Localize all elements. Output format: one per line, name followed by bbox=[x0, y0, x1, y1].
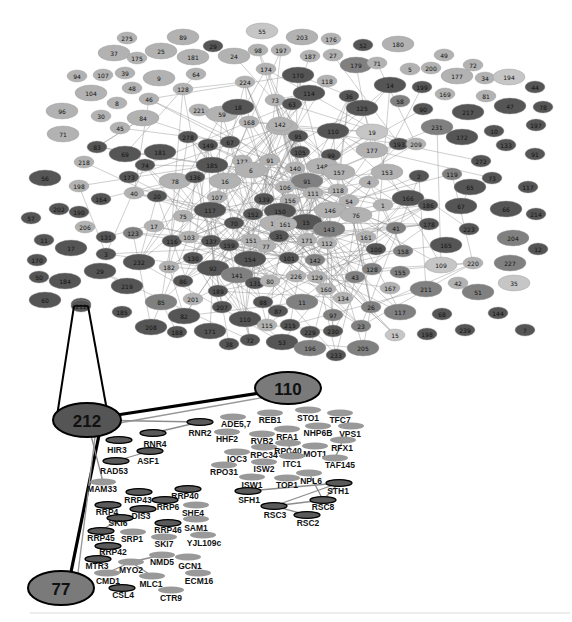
network-node[interactable]: 207 bbox=[212, 301, 232, 313]
network-node[interactable]: 18 bbox=[222, 99, 254, 115]
network-node[interactable]: 174 bbox=[256, 63, 276, 75]
protein-node-ioc3[interactable]: IOC3 bbox=[224, 449, 250, 464]
network-node[interactable]: 4 bbox=[359, 176, 379, 188]
network-node[interactable]: 160 bbox=[316, 283, 336, 295]
network-node[interactable]: 203 bbox=[286, 29, 318, 45]
network-node[interactable]: 47 bbox=[494, 98, 526, 114]
network-node[interactable]: 63 bbox=[282, 98, 302, 110]
protein-node-mlc1[interactable]: MLC1 bbox=[139, 573, 165, 589]
network-node[interactable]: 20 bbox=[147, 190, 167, 202]
protein-node-rrp42[interactable]: RRP42 bbox=[95, 543, 127, 557]
network-node[interactable]: 197 bbox=[271, 44, 291, 56]
network-node[interactable]: 39 bbox=[115, 67, 135, 79]
network-node[interactable]: 134 bbox=[333, 292, 353, 304]
network-node[interactable]: 180 bbox=[382, 36, 414, 52]
protein-node-dis3[interactable]: DIS3 bbox=[130, 506, 156, 521]
network-node[interactable]: 161 bbox=[356, 231, 376, 243]
network-node[interactable]: 27 bbox=[323, 49, 343, 61]
network-node[interactable]: 49 bbox=[434, 49, 454, 61]
network-node[interactable]: 218 bbox=[74, 156, 94, 168]
network-node[interactable]: 223 bbox=[459, 223, 479, 235]
network-node[interactable]: 1 bbox=[373, 199, 393, 211]
network-node[interactable]: 104 bbox=[75, 85, 107, 101]
network-node[interactable]: 11 bbox=[286, 294, 318, 310]
network-node[interactable]: 75 bbox=[173, 210, 193, 222]
network-node[interactable]: 66 bbox=[490, 201, 522, 217]
protein-node-gcn1[interactable]: GCN1 bbox=[175, 554, 202, 571]
hub-node-212[interactable]: 212 bbox=[53, 403, 121, 437]
network-node[interactable]: 154 bbox=[234, 251, 266, 267]
protein-node-rnr2[interactable]: RNR2 bbox=[187, 419, 213, 438]
network-node[interactable]: 172 bbox=[446, 129, 478, 145]
network-node[interactable]: 110 bbox=[229, 311, 261, 327]
network-node[interactable]: 43 bbox=[345, 271, 365, 283]
network-node[interactable]: 71 bbox=[47, 126, 79, 142]
network-node[interactable]: 80 bbox=[260, 275, 280, 287]
network-node[interactable]: 171 bbox=[297, 234, 317, 246]
protein-node-rrp43[interactable]: RRP43 bbox=[124, 489, 152, 505]
network-node[interactable]: 82 bbox=[168, 308, 200, 324]
protein-node-nmd5[interactable]: NMD5 bbox=[149, 552, 175, 567]
network-node[interactable]: 70 bbox=[224, 217, 244, 229]
network-node[interactable]: 101 bbox=[279, 252, 299, 264]
network-node[interactable]: 91 bbox=[260, 154, 280, 166]
network-node[interactable]: 149 bbox=[198, 139, 218, 151]
protein-node-myo2[interactable]: MYO2 bbox=[118, 559, 144, 575]
network-node[interactable]: 5 bbox=[400, 63, 420, 75]
network-node[interactable]: 100 bbox=[366, 243, 386, 255]
protein-node-ctr9[interactable]: CTR9 bbox=[158, 587, 184, 603]
network-node[interactable]: 227 bbox=[494, 255, 526, 271]
network-node[interactable]: 206 bbox=[75, 221, 95, 233]
network-node[interactable]: 85 bbox=[145, 294, 177, 310]
network-node[interactable]: 7 bbox=[515, 324, 535, 336]
network-node[interactable]: 72 bbox=[240, 334, 260, 346]
protein-node-rsc2[interactable]: RSC2 bbox=[294, 512, 320, 528]
network-node[interactable]: 48 bbox=[122, 82, 142, 94]
network-node[interactable]: 73 bbox=[482, 172, 502, 184]
network-node[interactable]: 197 bbox=[526, 119, 546, 131]
network-node[interactable]: 103 bbox=[179, 231, 199, 243]
network-node[interactable]: 12 bbox=[528, 243, 548, 255]
protein-node-csl4[interactable]: CSL4 bbox=[109, 585, 135, 600]
protein-node-rrp45[interactable]: RRP45 bbox=[87, 528, 115, 543]
network-node[interactable]: 74 bbox=[135, 159, 155, 171]
network-node[interactable]: 232 bbox=[123, 254, 155, 270]
network-node[interactable]: 30 bbox=[91, 110, 111, 122]
network-node[interactable]: 201 bbox=[183, 293, 203, 305]
network-node[interactable]: 57 bbox=[21, 212, 41, 224]
network-node[interactable]: 71 bbox=[367, 57, 387, 69]
protein-node-sto1[interactable]: STO1 bbox=[295, 407, 321, 423]
network-node[interactable]: 175 bbox=[127, 52, 147, 64]
network-node[interactable]: 181 bbox=[177, 49, 209, 65]
network-node[interactable]: 55 bbox=[246, 23, 278, 39]
network-node[interactable]: 177 bbox=[441, 68, 473, 84]
network-node[interactable]: 142 bbox=[268, 117, 292, 131]
network-node[interactable]: 119 bbox=[442, 168, 462, 180]
network-node[interactable]: 118 bbox=[328, 184, 348, 196]
protein-node-rsc3[interactable]: RSC3 bbox=[261, 503, 287, 520]
network-node[interactable]: 45 bbox=[110, 122, 130, 134]
protein-node-rsc8[interactable]: RSC8 bbox=[310, 497, 336, 512]
network-node[interactable]: 29 bbox=[84, 263, 116, 279]
network-node[interactable]: 186 bbox=[418, 199, 438, 211]
protein-node-mtr3[interactable]: MTR3 bbox=[85, 556, 111, 571]
network-node[interactable]: 19 bbox=[356, 124, 388, 140]
protein-node-sam1[interactable]: SAM1 bbox=[183, 516, 209, 533]
network-node[interactable]: 140 bbox=[285, 162, 305, 174]
network-node[interactable]: 165 bbox=[430, 237, 462, 253]
protein-node-taf145[interactable]: TAF145 bbox=[322, 455, 355, 470]
network-node[interactable]: 152 bbox=[243, 208, 263, 220]
network-node[interactable]: 117 bbox=[518, 181, 538, 193]
network-node[interactable]: 81 bbox=[476, 90, 496, 102]
network-node[interactable]: 96 bbox=[46, 103, 78, 119]
network-node[interactable]: 76 bbox=[340, 207, 372, 223]
protein-node-hir3[interactable]: HIR3 bbox=[106, 437, 132, 455]
network-node[interactable]: 17 bbox=[144, 220, 164, 232]
network-node[interactable]: 91 bbox=[525, 148, 545, 160]
network-node[interactable]: 112 bbox=[317, 237, 337, 249]
network-node[interactable]: 231 bbox=[421, 119, 453, 135]
network-node[interactable]: 133 bbox=[496, 139, 516, 151]
network-node[interactable]: 215 bbox=[280, 319, 300, 331]
protein-node-ski7[interactable]: SKI7 bbox=[151, 534, 177, 549]
network-node[interactable]: 6 bbox=[235, 162, 267, 178]
